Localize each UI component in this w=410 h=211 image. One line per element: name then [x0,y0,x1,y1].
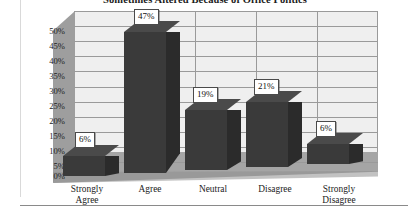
bar-side-face [288,102,302,167]
y-tick-15: 15% [25,132,65,141]
bar-front-face [124,32,166,173]
bar-side-face [166,32,180,173]
y-tick-40: 40% [25,57,65,66]
y-tick-5: 5% [25,162,65,171]
bar-side-face [349,144,363,164]
bar-side-face [227,110,241,170]
x-label-line-2: Agree [44,195,130,206]
bar-front-face [307,144,349,164]
y-tick-25: 25% [25,102,65,111]
y-tick-35: 35% [25,72,65,81]
y-tick-0: 0% [25,172,65,181]
data-label-neutral: 19% [193,87,218,103]
data-label-strongly-agree: 6% [75,132,95,148]
x-label-line-1: Strongly [296,184,382,195]
bar-front-face [185,110,227,170]
y-tick-10: 10% [25,147,65,156]
bar-front-face [246,102,288,167]
bar-neutral[interactable] [185,0,241,170]
x-label-line-2: Disagree [296,195,382,206]
y-tick-20: 20% [25,117,65,126]
bar-strongly-agree[interactable] [63,0,119,176]
x-label-strongly-disagree: Strongly Disagree [296,184,382,206]
y-tick-50: 50% [25,27,65,36]
y-tick-30: 30% [25,87,65,96]
y-tick-45: 45% [25,42,65,51]
data-label-agree: 47% [134,9,159,25]
bar-front-face [63,156,105,176]
bar-agree[interactable] [124,0,180,173]
data-label-disagree: 21% [254,79,279,95]
chart-plot-area: 50% 45% 40% 35% 30% 25% 20% 15% 10% 5% 0… [0,0,410,211]
data-label-strongly-disagree: 6% [316,121,336,137]
bar-side-face [105,156,119,176]
bar-strongly-disagree[interactable] [307,0,363,164]
